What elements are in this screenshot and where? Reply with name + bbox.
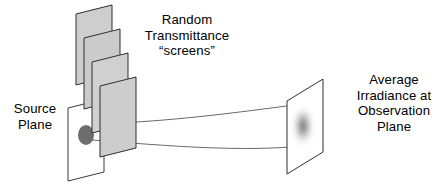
label-random-transmittance-screens: Random Transmittance “screens” <box>137 12 237 59</box>
figure-canvas: Source Plane Random Transmittance “scree… <box>0 0 442 192</box>
observation-plane-group <box>287 79 323 174</box>
screen-4 <box>94 72 146 164</box>
label-average-irradiance-observation-plane: Average Irradiance at Observation Plane <box>348 72 440 134</box>
average-irradiance-blob <box>294 106 313 146</box>
label-source-plane: Source Plane <box>2 101 68 132</box>
